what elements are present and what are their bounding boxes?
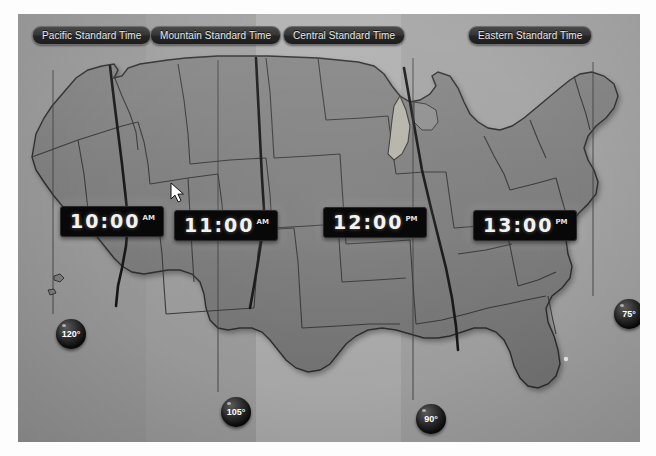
central-clock-time: 12:00 [333,213,403,232]
tz-label-mountain[interactable]: Mountain Standard Time [150,26,281,45]
tz-label-central[interactable]: Central Standard Time [283,26,405,45]
eastern-clock[interactable]: 13:00 PM [473,210,577,241]
meridian-marker-75-label: 75° [622,309,636,319]
eastern-clock-time: 13:00 [483,216,553,235]
meridian-marker-120[interactable]: 120° [56,319,86,349]
meridian-marker-105[interactable]: 105° [221,397,251,427]
meridian-marker-75[interactable]: 75° [614,299,640,329]
tz-label-eastern[interactable]: Eastern Standard Time [468,26,592,45]
tz-label-pacific[interactable]: Pacific Standard Time [32,26,151,45]
meridian-marker-90-label: 90° [424,414,438,424]
meridian-marker-90[interactable]: 90° [416,404,446,434]
tz-label-central-text: Central Standard Time [293,30,395,41]
pacific-clock-time: 10:00 [70,212,140,231]
central-clock[interactable]: 12:00 PM [323,207,427,238]
pacific-clock-meridiem: AM [142,215,154,222]
central-clock-meridiem: PM [405,216,417,223]
meridian-marker-120-label: 120° [62,329,81,339]
mountain-clock[interactable]: 11:00 AM [174,210,278,241]
time-zone-map-panel[interactable]: Pacific Standard Time Mountain Standard … [18,14,640,442]
pacific-clock[interactable]: 10:00 AM [60,206,164,237]
tz-label-pacific-text: Pacific Standard Time [42,30,141,41]
eastern-clock-meridiem: PM [555,219,567,226]
mountain-clock-meridiem: AM [256,219,268,226]
screenshot-root: Pacific Standard Time Mountain Standard … [0,0,656,456]
tz-label-mountain-text: Mountain Standard Time [160,30,271,41]
mountain-clock-time: 11:00 [184,216,254,235]
tz-label-eastern-text: Eastern Standard Time [478,30,582,41]
meridian-marker-105-label: 105° [227,407,246,417]
